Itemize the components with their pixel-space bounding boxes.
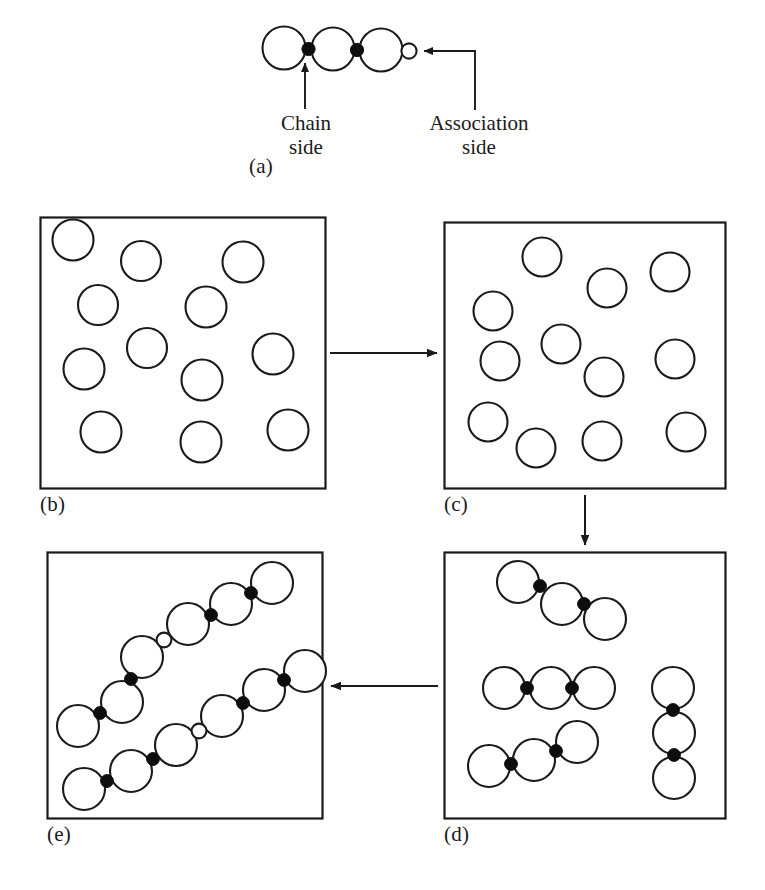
panel-label-e: (e) [47,824,71,845]
panel-d-trimer-4 [652,667,695,799]
panel-a-trimer [263,27,417,72]
diagram-svg [0,0,765,890]
panel-d-trimer-2 [483,667,615,709]
callout-association-side: Association side [409,112,549,159]
panel-label-d: (d) [444,824,469,845]
panel-label-c: (c) [444,494,468,515]
panel-label-a: (a) [249,156,273,177]
figure-canvas: Chain side Association side (a) (b) (c) … [0,0,765,890]
callout-chain-side: Chain side [258,112,354,159]
panel-label-b: (b) [40,494,65,515]
association-side-leader [424,51,475,110]
